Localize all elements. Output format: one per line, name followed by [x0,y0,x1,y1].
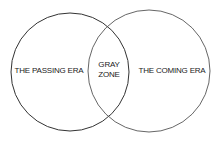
gray-zone-label-line1: GRAY [98,60,119,70]
coming-era-label: THE COMING ERA [139,66,206,76]
passing-era-label: THE PASSING ERA [15,66,84,76]
gray-zone-label-line2: ZONE [98,70,119,80]
